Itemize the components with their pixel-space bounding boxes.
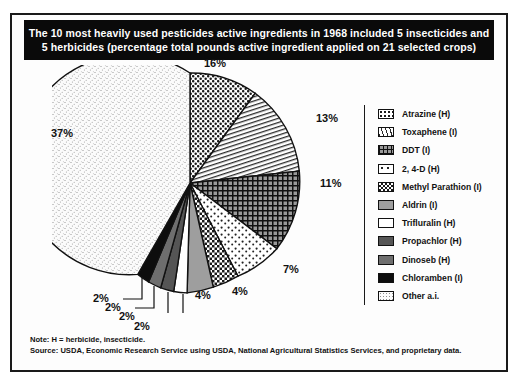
legend-item-dinoseb[interactable]: Dinoseb (H) bbox=[378, 251, 504, 269]
legend-item-other[interactable]: Other a.i. bbox=[378, 287, 504, 305]
note-line: Note: H = herbicide, insecticide. bbox=[30, 335, 500, 346]
legend-swatch-toxaphene bbox=[378, 127, 394, 137]
legend-swatch-atrazine bbox=[378, 109, 394, 119]
legend-label-methyl-parathion: Methyl Parathion (I) bbox=[402, 182, 482, 192]
legend-item-methyl-parathion[interactable]: Methyl Parathion (I) bbox=[378, 178, 504, 196]
pct-label-24d: 7% bbox=[283, 263, 299, 275]
pct-label-other: 37% bbox=[51, 127, 73, 139]
chart-title-line-1: The 10 most heavily used pesticides acti… bbox=[29, 26, 490, 40]
pct-label-atrazine: 16% bbox=[204, 57, 226, 69]
legend-item-24d[interactable]: 2, 4-D (H) bbox=[378, 160, 504, 178]
legend-label-trifluralin: Trifluralin (H) bbox=[402, 218, 455, 228]
pct-label-propachlor: 2% bbox=[119, 310, 135, 322]
legend-label-dinoseb: Dinoseb (H) bbox=[402, 255, 450, 265]
legend-item-toxaphene[interactable]: Toxaphene (I) bbox=[378, 123, 504, 141]
pct-label-aldrin: 4% bbox=[195, 289, 211, 301]
pie-chart: 16% 13% 11% 7% 4% 4% 2% 2% 2% 2% 37% bbox=[52, 65, 352, 313]
legend-swatch-other bbox=[378, 291, 394, 301]
pct-label-trifluralin: 2% bbox=[134, 320, 150, 332]
source-line: Source: USDA, Economic Research Service … bbox=[30, 346, 500, 357]
legend-label-other: Other a.i. bbox=[402, 291, 439, 301]
legend-label-ddt: DDT (I) bbox=[402, 145, 430, 155]
legend-label-toxaphene: Toxaphene (I) bbox=[402, 127, 457, 137]
legend-label-aldrin: Aldrin (I) bbox=[402, 200, 437, 210]
pct-label-ddt: 11% bbox=[320, 177, 341, 189]
legend-swatch-ddt bbox=[378, 145, 394, 155]
leader-chloramben bbox=[123, 278, 142, 299]
pct-label-toxaphene: 13% bbox=[316, 112, 338, 124]
chart-title: The 10 most heavily used pesticides acti… bbox=[24, 20, 494, 60]
legend-swatch-trifluralin bbox=[378, 218, 394, 228]
pie-svg bbox=[52, 65, 352, 313]
plot-area: 16% 13% 11% 7% 4% 4% 2% 2% 2% 2% 37% Atr… bbox=[12, 63, 506, 313]
legend-swatch-24d bbox=[378, 164, 394, 174]
legend-item-propachlor[interactable]: Propachlor (H) bbox=[378, 232, 504, 250]
leader-propachlor bbox=[149, 292, 168, 313]
legend-item-ddt[interactable]: DDT (I) bbox=[378, 141, 504, 159]
footnotes: Note: H = herbicide, insecticide. Source… bbox=[30, 335, 500, 356]
legend-item-trifluralin[interactable]: Trifluralin (H) bbox=[378, 214, 504, 232]
legend-swatch-propachlor bbox=[378, 236, 394, 246]
leader-trifluralin bbox=[164, 294, 183, 313]
legend: Atrazine (H) Toxaphene (I) DDT (I) 2, 4-… bbox=[364, 105, 504, 305]
pct-label-methyl: 4% bbox=[232, 285, 248, 297]
chart-title-line-2: 5 herbicides (percentage total pounds ac… bbox=[42, 40, 476, 54]
pie-slices bbox=[52, 65, 300, 293]
legend-swatch-aldrin bbox=[378, 200, 394, 210]
legend-label-chloramben: Chloramben (I) bbox=[402, 273, 463, 283]
legend-swatch-methyl-parathion bbox=[378, 182, 394, 192]
legend-swatch-chloramben bbox=[378, 273, 394, 283]
legend-label-propachlor: Propachlor (H) bbox=[402, 236, 462, 246]
legend-label-atrazine: Atrazine (H) bbox=[402, 109, 450, 119]
legend-item-atrazine[interactable]: Atrazine (H) bbox=[378, 105, 504, 123]
pct-label-chloramben: 2% bbox=[93, 292, 109, 304]
legend-item-aldrin[interactable]: Aldrin (I) bbox=[378, 196, 504, 214]
leader-dinoseb bbox=[135, 286, 154, 308]
legend-label-24d: 2, 4-D (H) bbox=[402, 164, 440, 174]
legend-swatch-dinoseb bbox=[378, 255, 394, 265]
figure-frame: The 10 most heavily used pesticides acti… bbox=[10, 13, 508, 372]
legend-item-chloramben[interactable]: Chloramben (I) bbox=[378, 269, 504, 287]
